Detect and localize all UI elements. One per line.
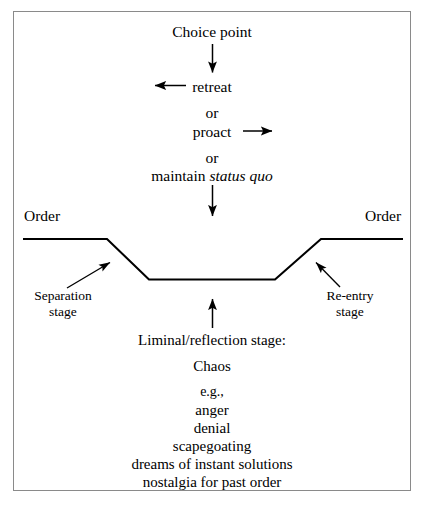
separation-stage-line2: stage (34, 304, 92, 320)
liminal-example-denial: denial (194, 421, 231, 436)
option-maintain-status-quo-label: maintain status quo (151, 168, 272, 184)
order-label-right: Order (365, 208, 401, 224)
option-or-label-2: or (206, 150, 219, 166)
separation-stage-line1: Separation (34, 288, 92, 304)
separation-stage-label: Separation stage (34, 288, 92, 320)
status-quo-italic: status quo (209, 167, 272, 184)
reentry-stage-line1: Re-entry (326, 288, 373, 304)
liminal-heading: Liminal/reflection stage: (138, 333, 286, 348)
option-or-label-1: or (206, 105, 219, 121)
liminal-chaos: Chaos (193, 359, 231, 374)
liminal-example-scapegoating: scapegoating (173, 439, 251, 454)
liminal-example-nostalgia: nostalgia for past order (143, 475, 282, 490)
liminal-eg: e.g., (200, 385, 224, 399)
choice-point-label: Choice point (172, 24, 252, 40)
reentry-stage-line2: stage (326, 304, 373, 320)
diagram-canvas: Choice point retreat or proact or mainta… (0, 0, 424, 507)
order-label-left: Order (24, 208, 60, 224)
option-retreat-label: retreat (192, 79, 232, 95)
liminal-example-anger: anger (195, 403, 228, 418)
option-proact-label: proact (193, 124, 232, 140)
maintain-word: maintain (151, 167, 209, 184)
reentry-stage-label: Re-entry stage (326, 288, 373, 320)
liminal-example-dreams: dreams of instant solutions (131, 457, 292, 472)
